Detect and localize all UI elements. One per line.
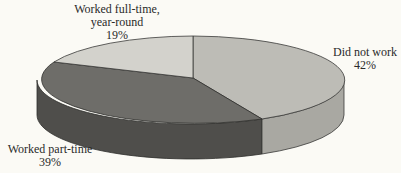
label-fulltime: Worked full-time, year-round 19%: [62, 3, 172, 42]
label-parttime: Worked part-time 39%: [0, 143, 100, 169]
label-notwork-pct: 42%: [330, 59, 400, 72]
label-notwork: Did not work 42%: [330, 46, 400, 72]
label-parttime-pct: 39%: [0, 156, 100, 169]
label-fulltime-pct: 19%: [62, 29, 172, 42]
